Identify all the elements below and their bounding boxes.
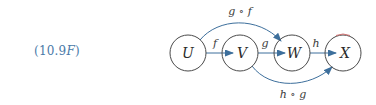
node-x-label: X bbox=[339, 45, 351, 61]
node-w-label: W bbox=[287, 45, 303, 61]
node-x: X bbox=[325, 34, 361, 71]
node-v: V bbox=[222, 35, 258, 71]
edge-h-compose-g-label: h ∘ g bbox=[280, 88, 307, 101]
edge-f-label: f bbox=[212, 37, 219, 50]
edge-h-label: h bbox=[312, 37, 319, 50]
commutative-diagram: U V W X f g h g ∘ f h ∘ g bbox=[0, 0, 376, 105]
node-u: U bbox=[170, 35, 206, 71]
edge-g-label: g bbox=[261, 37, 268, 50]
node-u-label: U bbox=[182, 45, 195, 61]
edge-g-compose-f-label: g ∘ f bbox=[228, 5, 253, 18]
node-w: W bbox=[274, 35, 310, 71]
